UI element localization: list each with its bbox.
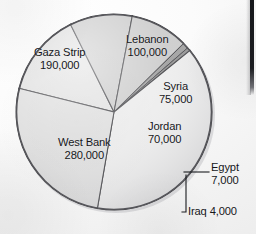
slice-label-name: Egypt — [211, 161, 239, 174]
slice-label-name: Syria — [159, 80, 192, 93]
slice-label-name: Iraq — [188, 205, 210, 217]
slice-label-name: Jordan — [148, 120, 181, 133]
slice-label-value: 75,000 — [159, 93, 192, 106]
slice-callout-iraq: Iraq 4,000 — [188, 205, 237, 218]
slice-label-value: 4,000 — [210, 205, 237, 217]
slice-label-syria: Syria 75,000 — [159, 80, 192, 105]
slice-callout-egypt: Egypt 7,000 — [211, 161, 239, 186]
slice-label-gaza-strip: Gaza Strip 190,000 — [34, 46, 85, 71]
slice-label-jordan: Jordan 70,000 — [148, 120, 181, 145]
slice-label-value: 190,000 — [34, 59, 85, 72]
slice-label-value: 70,000 — [148, 133, 181, 146]
slice-label-lebanon: Lebanon 100,000 — [126, 33, 169, 58]
slice-label-value: 280,000 — [58, 149, 111, 162]
slice-label-west-bank: West Bank 280,000 — [58, 136, 111, 161]
pie-chart-figure: Gaza Strip 190,000 Lebanon 100,000 Syria… — [0, 0, 256, 234]
slice-label-name: West Bank — [58, 136, 111, 149]
slice-label-name: Gaza Strip — [34, 46, 85, 59]
slice-label-value: 100,000 — [126, 46, 169, 59]
page-edge-artifact — [250, 0, 254, 95]
slice-label-value: 7,000 — [211, 174, 239, 187]
slice-label-name: Lebanon — [126, 33, 169, 46]
